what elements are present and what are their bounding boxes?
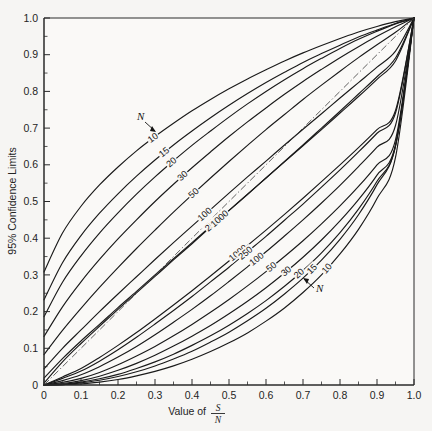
x-axis-title-prefix: Value of — [168, 405, 206, 417]
y-axis-title: 95% Confidence Limits — [6, 147, 18, 254]
y-tick-label: 0.4 — [23, 232, 38, 244]
y-tick-label: 0.5 — [23, 195, 38, 207]
x-tick-label: 0.2 — [111, 389, 126, 401]
x-axis-title-numerator: S — [216, 403, 221, 413]
x-axis-title: Value of S N — [168, 403, 225, 425]
x-tick-label: 0.9 — [370, 389, 385, 401]
x-tick-label: 0.7 — [296, 389, 311, 401]
lower-n-label: N — [315, 282, 324, 294]
x-tick-label: 0.3 — [148, 389, 163, 401]
y-tick-label: 0.9 — [23, 48, 38, 60]
y-axis-title-text: 95% Confidence Limits — [6, 147, 18, 254]
confidence-limits-chart: 00.10.20.30.40.50.60.70.80.91.0 00.10.20… — [0, 0, 432, 431]
upper-n-label: N — [136, 110, 145, 122]
x-tick-label: 0 — [41, 389, 47, 401]
y-tick-label: 0.8 — [23, 85, 38, 97]
y-tick-label: 1.0 — [23, 12, 38, 24]
figure-page: 00.10.20.30.40.50.60.70.80.91.0 00.10.20… — [0, 0, 432, 431]
y-tick-label: 0 — [32, 379, 38, 391]
x-tick-label: 0.4 — [185, 389, 200, 401]
x-tick-label: 0.5 — [222, 389, 237, 401]
y-tick-label: 0.1 — [23, 342, 38, 354]
y-tick-label: 0.3 — [23, 269, 38, 281]
x-tick-label: 0.6 — [259, 389, 274, 401]
x-tick-label: 0.8 — [333, 389, 348, 401]
x-axis-title-denominator: N — [214, 415, 222, 425]
y-tick-label: 0.6 — [23, 158, 38, 170]
y-tick-label: 0.7 — [23, 122, 38, 134]
y-tick-label: 0.2 — [23, 305, 38, 317]
x-tick-label: 1.0 — [407, 389, 422, 401]
x-tick-label: 0.1 — [74, 389, 89, 401]
